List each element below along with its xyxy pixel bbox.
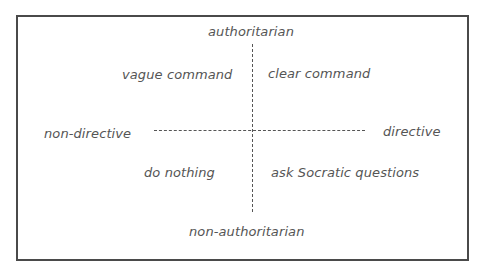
quadrant-top-right: clear command <box>268 66 370 82</box>
axis-label-directive: directive <box>383 124 441 140</box>
quadrant-top-left: vague command <box>122 67 232 83</box>
quadrant-bottom-right: ask Socratic questions <box>271 165 419 181</box>
axis-label-non-directive: non-directive <box>44 126 131 142</box>
quadrant-bottom-left: do nothing <box>144 165 215 181</box>
axis-label-authoritarian: authoritarian <box>208 24 294 40</box>
vertical-axis-line <box>252 44 253 212</box>
horizontal-axis-line <box>154 130 365 131</box>
axis-label-non-authoritarian: non-authoritarian <box>189 224 305 240</box>
